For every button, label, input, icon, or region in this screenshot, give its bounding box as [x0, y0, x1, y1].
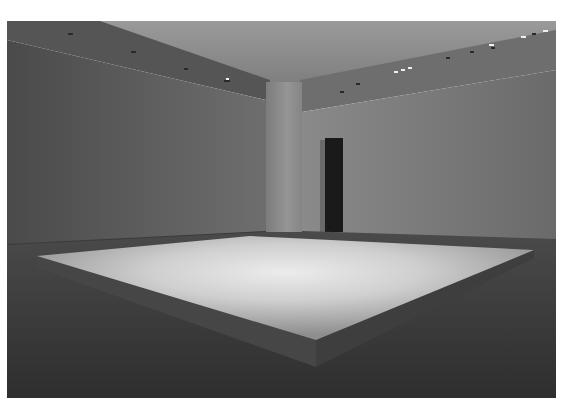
- doorway: [325, 138, 343, 232]
- doorway-frame: [320, 140, 325, 232]
- gallery-photo: [7, 21, 556, 398]
- pillar: [266, 82, 302, 234]
